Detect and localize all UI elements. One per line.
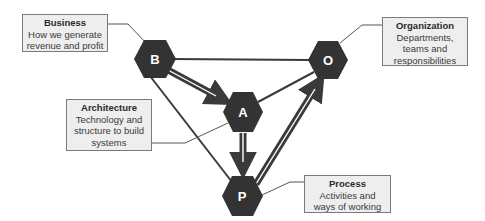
edge-b-o: [172, 59, 310, 60]
node-b-label: B: [150, 52, 159, 67]
architecture-title: Architecture: [70, 102, 148, 114]
node-o: O: [308, 41, 348, 79]
process-description: Activities and ways of working: [308, 190, 387, 213]
architecture-callout: Architecture Technology and structure to…: [66, 99, 152, 151]
node-a: A: [223, 92, 263, 132]
connector-business: [107, 24, 146, 43]
edge-b-p: [150, 76, 232, 182]
node-o-label: O: [323, 53, 333, 68]
connector-organization: [340, 25, 382, 43]
architecture-description: Technology and structure to build system…: [70, 114, 148, 149]
process-title: Process: [308, 178, 387, 190]
organization-description: Departments, teams and responsibilities: [386, 32, 464, 67]
organization-title: Organization: [386, 20, 464, 32]
process-callout: Process Activities and ways of working: [304, 175, 391, 213]
business-description: How we generate revenue and profit: [26, 29, 104, 52]
business-callout: Business How we generate revenue and pro…: [22, 14, 108, 52]
arrow-b-a: [168, 70, 222, 99]
node-p-label: P: [238, 189, 247, 204]
connector-process: [262, 182, 304, 195]
business-title: Business: [26, 17, 104, 29]
node-a-label: A: [238, 105, 248, 120]
organization-callout: Organization Departments, teams and resp…: [382, 17, 468, 66]
